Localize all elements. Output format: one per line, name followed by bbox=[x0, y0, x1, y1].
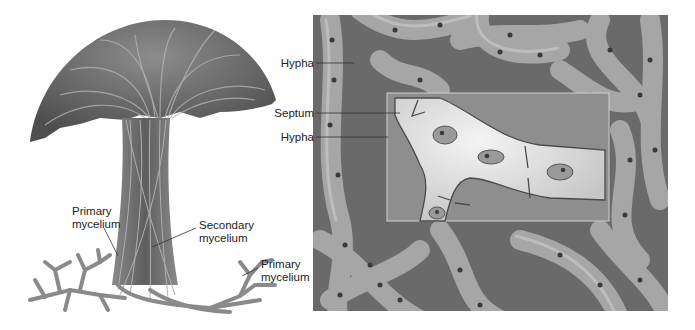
label-primary-mycelium-right: Primary mycelium bbox=[261, 258, 310, 284]
fungus-diagram bbox=[0, 0, 695, 330]
label-primary-mycelium-left: Primary mycelium bbox=[72, 205, 121, 231]
mushroom-illustration bbox=[30, 20, 276, 312]
label-hypha-bottom: Hypha bbox=[270, 131, 314, 144]
label-septum: Septum bbox=[264, 107, 314, 120]
label-hypha-top: Hypha bbox=[270, 57, 314, 70]
magnified-inset bbox=[387, 93, 609, 221]
hyphae-mat-illustration bbox=[313, 6, 668, 320]
label-secondary-mycelium: Secondary mycelium bbox=[199, 219, 254, 245]
primary-mycelium-left-drawing bbox=[30, 250, 125, 310]
